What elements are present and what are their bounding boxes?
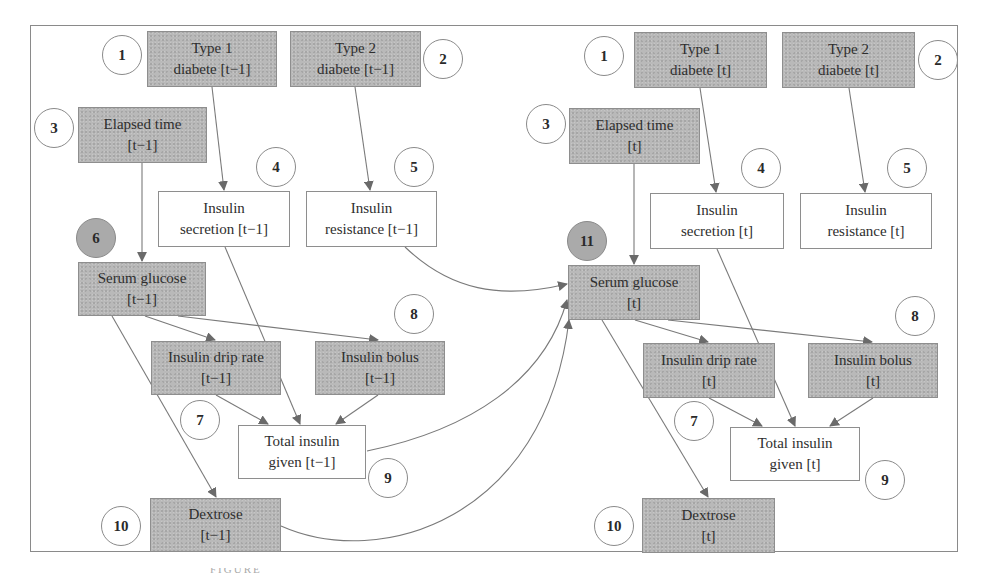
- node-label-line1: Insulin: [203, 198, 245, 219]
- node-label-line1: Dextrose: [188, 504, 242, 525]
- node-label-line2: diabete [t−1]: [173, 59, 250, 80]
- node-label-line2: resistance [t]: [827, 221, 904, 242]
- node-label-line1: Serum glucose: [590, 272, 679, 293]
- edge-type1-secretion-prev: [212, 87, 224, 190]
- node-serum-glucose-prev[interactable]: Serum glucose [t−1]: [78, 262, 206, 316]
- node-label-line2: [t]: [702, 371, 716, 392]
- edge-type2-resistance-curr: [849, 88, 865, 192]
- node-insulin-secretion-prev[interactable]: Insulin secretion [t−1]: [158, 191, 290, 247]
- figure-caption: FIGURE: [210, 568, 770, 576]
- caption-text: FIGURE: [210, 568, 770, 575]
- node-label-line2: [t−1]: [127, 289, 157, 310]
- node-total-insulin-curr[interactable]: Total insulin given [t]: [730, 427, 860, 481]
- node-label-line1: Insulin bolus: [834, 350, 912, 371]
- edge-type1-secretion-curr: [700, 88, 716, 192]
- node-label-line2: [t]: [627, 136, 641, 157]
- node-label-line2: [t]: [866, 371, 880, 392]
- node-label-line2: [t]: [627, 293, 641, 314]
- node-label-line1: Insulin drip rate: [661, 350, 757, 371]
- node-elapsed-time-prev[interactable]: Elapsed time [t−1]: [78, 107, 207, 163]
- node-serum-glucose-curr[interactable]: Serum glucose [t]: [568, 265, 700, 320]
- edge-type2-resistance-prev: [355, 87, 370, 190]
- node-insulin-drip-rate-curr[interactable]: Insulin drip rate [t]: [643, 343, 775, 398]
- node-insulin-resistance-curr[interactable]: Insulin resistance [t]: [800, 193, 932, 249]
- node-label-line1: Insulin drip rate: [168, 347, 264, 368]
- edge-secretion-total-curr: [717, 249, 795, 426]
- node-insulin-resistance-prev[interactable]: Insulin resistance [t−1]: [306, 191, 437, 247]
- edge-bolus-total-curr: [830, 398, 873, 426]
- edge-drip-total-curr: [709, 398, 762, 426]
- badge-9-prev: 9: [368, 458, 408, 498]
- node-total-insulin-prev[interactable]: Total insulin given [t−1]: [238, 425, 366, 479]
- badge-5-curr: 5: [887, 148, 927, 188]
- badge-11-curr: 11: [567, 221, 607, 261]
- node-label-line2: secretion [t−1]: [180, 219, 268, 240]
- badge-10-curr: 10: [594, 506, 634, 546]
- node-type1-diabetes-curr[interactable]: Type 1 diabete [t]: [634, 32, 767, 88]
- edge-bolus-total-prev: [336, 395, 378, 424]
- node-insulin-secretion-curr[interactable]: Insulin secretion [t]: [650, 193, 784, 249]
- node-label-line2: diabete [t−1]: [317, 59, 394, 80]
- badge-3-curr: 3: [526, 104, 566, 144]
- badge-1-prev: 1: [102, 35, 142, 75]
- badge-8-prev: 8: [394, 294, 434, 334]
- node-label-line2: [t−1]: [365, 368, 395, 389]
- badge-6-prev: 6: [76, 218, 116, 258]
- node-label-line2: [t−1]: [201, 368, 231, 389]
- node-label-line1: Type 1: [680, 39, 721, 60]
- node-label-line1: Type 2: [335, 38, 376, 59]
- edge-drip-total-prev: [216, 395, 268, 424]
- node-label-line2: [t]: [701, 526, 715, 547]
- node-label-line1: Insulin bolus: [341, 347, 419, 368]
- node-label-line1: Insulin: [845, 200, 887, 221]
- node-type2-diabetes-curr[interactable]: Type 2 diabete [t]: [782, 32, 915, 88]
- badge-4-prev: 4: [256, 147, 296, 187]
- node-label-line1: Elapsed time: [596, 115, 674, 136]
- node-label-line1: Total insulin: [757, 433, 832, 454]
- badge-9-curr: 9: [865, 460, 905, 500]
- node-dextrose-curr[interactable]: Dextrose [t]: [642, 498, 775, 553]
- node-label-line1: Serum glucose: [98, 268, 187, 289]
- node-elapsed-time-curr[interactable]: Elapsed time [t]: [569, 108, 700, 164]
- badge-10-prev: 10: [101, 506, 141, 546]
- badge-3-prev: 3: [34, 108, 74, 148]
- badge-1-curr: 1: [584, 36, 624, 76]
- badge-7-prev: 7: [180, 400, 220, 440]
- node-insulin-bolus-prev[interactable]: Insulin bolus [t−1]: [315, 341, 445, 395]
- node-label-line2: secretion [t]: [681, 221, 753, 242]
- badge-8-curr: 8: [895, 296, 935, 336]
- node-label-line2: resistance [t−1]: [325, 219, 418, 240]
- node-label-line1: Insulin: [696, 200, 738, 221]
- node-label-line2: diabete [t]: [818, 60, 879, 81]
- node-type1-diabetes-prev[interactable]: Type 1 diabete [t−1]: [147, 31, 277, 87]
- node-label-line1: Type 1: [191, 38, 232, 59]
- badge-2-curr: 2: [918, 40, 958, 80]
- node-label-line1: Insulin: [351, 198, 393, 219]
- node-dextrose-prev[interactable]: Dextrose [t−1]: [150, 498, 281, 552]
- node-label-line1: Type 2: [828, 39, 869, 60]
- node-label-line2: given [t−1]: [268, 452, 335, 473]
- node-label-line2: diabete [t]: [670, 60, 731, 81]
- node-label-line1: Dextrose: [681, 505, 735, 526]
- node-label-line1: Elapsed time: [104, 114, 182, 135]
- node-label-line2: [t−1]: [127, 135, 157, 156]
- node-label-line1: Total insulin: [264, 431, 339, 452]
- badge-4-curr: 4: [741, 148, 781, 188]
- node-insulin-bolus-curr[interactable]: Insulin bolus [t]: [808, 343, 938, 398]
- node-label-line2: [t−1]: [200, 525, 230, 546]
- edge-glucose-bolus-prev: [178, 316, 378, 340]
- edge-secretion-total-prev: [225, 247, 300, 424]
- node-label-line2: given [t]: [769, 454, 820, 475]
- node-type2-diabetes-prev[interactable]: Type 2 diabete [t−1]: [290, 31, 421, 87]
- badge-5-prev: 5: [394, 147, 434, 187]
- edge-resistance-prev-to-glucose-curr: [405, 247, 567, 291]
- node-insulin-drip-rate-prev[interactable]: Insulin drip rate [t−1]: [151, 341, 281, 395]
- badge-2-prev: 2: [423, 39, 463, 79]
- badge-7-curr: 7: [674, 401, 714, 441]
